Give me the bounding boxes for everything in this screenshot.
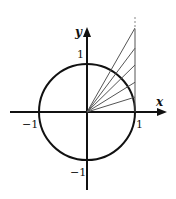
- tick-label-x-pos: 1: [136, 118, 143, 131]
- continuation-dots: [134, 17, 136, 27]
- x-axis-label: x: [155, 95, 164, 109]
- y-axis-arrowhead: [83, 27, 91, 37]
- tick-label-y-pos: 1: [77, 48, 84, 61]
- y-axis-label: y: [74, 25, 83, 39]
- tick-label-x-neg: −1: [22, 118, 38, 131]
- ray: [87, 82, 135, 112]
- x-axis-arrowhead: [157, 108, 167, 116]
- tick-label-y-neg: −1: [70, 166, 86, 179]
- rays: [87, 28, 135, 112]
- ray: [87, 48, 135, 112]
- unit-circle-diagram: x y 1 −1 1 −1: [0, 0, 176, 199]
